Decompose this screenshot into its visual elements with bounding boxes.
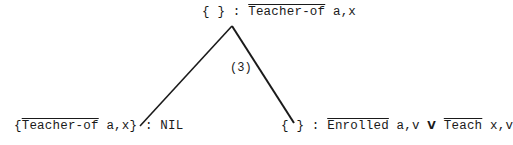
right-child-node: { } : Enrolled a,v V Teach x,v	[281, 119, 513, 133]
left-child-node: {Teacher-of a,x} : NIL	[14, 119, 183, 133]
left-separator: :	[145, 119, 153, 133]
right-literal-2: Teach	[444, 119, 483, 133]
root-node: { } : Teacher-of a,x	[202, 5, 356, 19]
left-literal: Teacher-of	[22, 119, 99, 133]
right-set: { }	[281, 119, 304, 133]
edge-label: (3)	[230, 61, 252, 75]
left-set-open: {	[14, 119, 22, 133]
root-set: { }	[202, 5, 225, 19]
right-literal-1: Enrolled	[327, 119, 389, 133]
right-separator: :	[312, 119, 320, 133]
left-clause: NIL	[160, 119, 183, 133]
root-args: a,x	[333, 5, 356, 19]
right-args-2: x,v	[490, 119, 513, 133]
left-set-close: }	[130, 119, 138, 133]
or-connective: V	[427, 119, 436, 132]
right-args-1: a,v	[397, 119, 420, 133]
root-literal: Teacher-of	[248, 5, 325, 19]
left-args: a,x	[106, 119, 129, 133]
edge-left	[140, 26, 232, 126]
root-separator: :	[233, 5, 241, 19]
